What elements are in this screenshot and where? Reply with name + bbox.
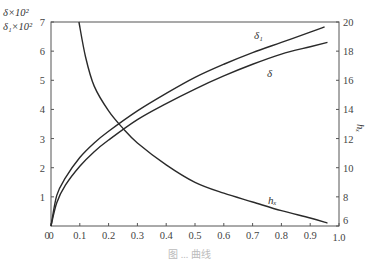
x-tick-label: 0.5: [188, 230, 201, 241]
left-y-axis-ticks: 12345670: [40, 17, 54, 241]
delta-curve: [51, 42, 327, 226]
left-y-tick-label: 6: [40, 46, 45, 57]
x-tick-label: 0.7: [246, 230, 259, 241]
left-y-tick-label: 3: [40, 134, 45, 145]
left-axis-title-delta1: δ₁×10²: [3, 21, 33, 32]
x-tick-label: 0.9: [304, 230, 317, 241]
delta1-curve: [51, 27, 325, 226]
chart: 00.10.20.30.40.50.60.70.80.91.0 12345670…: [0, 0, 379, 259]
right-y-tick-label: 10: [343, 163, 354, 174]
right-y-tick-label: 18: [343, 46, 354, 57]
curves: [51, 22, 327, 226]
x-tick-label: 0.1: [73, 230, 86, 241]
x-tick-label: 0.2: [102, 230, 115, 241]
curve-label-hx: hₓ: [268, 194, 277, 206]
right-y-tick-label: 12: [343, 134, 354, 145]
left-y-tick-label: 4: [40, 104, 46, 115]
left-y-tick-label: 7: [40, 17, 45, 28]
right-y-tick-label: 20: [343, 17, 354, 28]
right-y-tick-label: 8: [343, 192, 348, 203]
left-y-tick-label: 1: [40, 192, 45, 203]
x-tick-label: 0.6: [217, 230, 230, 241]
curve-label-delta1: δ₁: [254, 29, 263, 41]
figure-caption: 图 ... 曲线: [0, 246, 379, 259]
plot-frame: [51, 22, 339, 226]
origin-label: 0: [44, 230, 49, 241]
left-y-tick-label: 2: [40, 163, 45, 174]
x-tick-label: 0.8: [275, 230, 288, 241]
curve-label-delta: δ: [267, 67, 273, 79]
right-axis-title-hx: hₓ: [355, 124, 366, 132]
x-tick-label: 1.0: [332, 232, 345, 243]
left-axis-title-delta: δ×10²: [3, 7, 29, 18]
right-y-tick-label: 14: [343, 104, 354, 115]
x-tick-label: 0.4: [160, 230, 174, 241]
left-y-tick-label: 5: [40, 75, 45, 86]
right-y-tick-label: 16: [343, 75, 354, 86]
right-y-tick-label: 6: [343, 215, 348, 226]
x-tick-label: 0.3: [131, 230, 144, 241]
